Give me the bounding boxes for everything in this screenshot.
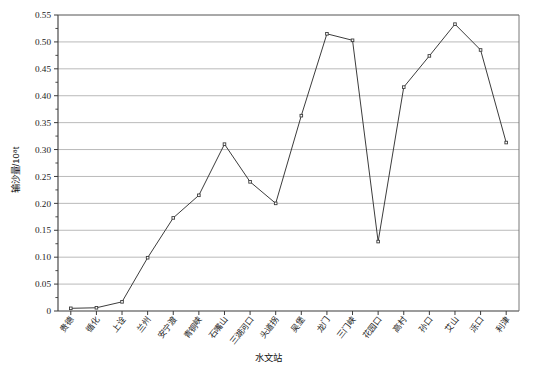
- y-axis-tick-label: 0.45: [35, 64, 51, 74]
- x-axis-category-label: 循化: [84, 314, 102, 334]
- data-point-marker: [198, 194, 201, 197]
- sediment-discharge-line-chart: 00.050.100.150.200.250.300.350.400.450.5…: [0, 0, 535, 375]
- data-point-marker: [121, 301, 124, 304]
- x-axis-ticks-group: [71, 311, 506, 315]
- data-point-marker: [454, 23, 457, 26]
- x-axis-category-label: 龙门: [314, 315, 332, 334]
- data-point-marker: [505, 141, 508, 144]
- x-axis-category-label: 孙口: [417, 315, 435, 334]
- y-axis-title: 输沙量/10⁸t: [10, 146, 21, 193]
- data-point-marker: [428, 55, 431, 58]
- x-axis-category-label: 吴堡: [289, 314, 307, 334]
- data-point-marker: [223, 143, 226, 146]
- x-axis-category-label: 三湖河口: [228, 315, 256, 346]
- y-axis-tick-label: 0.25: [35, 172, 51, 182]
- y-axis-ticks-group: [54, 15, 58, 311]
- y-axis-tick-label: 0.40: [35, 91, 51, 101]
- x-axis-category-label: 兰州: [135, 315, 153, 334]
- y-axis-tick-label: 0.15: [35, 225, 51, 235]
- y-axis-tick-labels-group: 00.050.100.150.200.250.300.350.400.450.5…: [35, 10, 51, 316]
- x-axis-category-label: 三门峡: [335, 314, 358, 340]
- x-axis-category-labels-group: 贵德循化上诠兰州安宁渡青铜峡石嘴山三湖河口头道拐吴堡龙门三门峡花园口高村孙口艾山…: [58, 314, 512, 346]
- x-axis-category-label: 高村: [391, 314, 409, 334]
- x-axis-category-label: 安宁渡: [156, 314, 179, 340]
- gridlines-group: [58, 15, 519, 284]
- data-point-marker: [351, 39, 354, 42]
- data-point-marker: [326, 33, 329, 36]
- data-point-marker: [95, 306, 98, 309]
- data-markers-group: [70, 23, 508, 310]
- x-axis-category-label: 贵德: [58, 314, 76, 334]
- data-point-marker: [274, 202, 277, 205]
- data-point-marker: [70, 307, 73, 310]
- data-point-marker: [479, 49, 482, 52]
- y-axis-tick-label: 0.50: [35, 37, 51, 47]
- data-series-group: [71, 24, 506, 308]
- data-point-marker: [249, 181, 252, 184]
- x-axis-category-label: 石嘴山: [207, 315, 230, 340]
- x-axis-category-label: 青铜峡: [181, 314, 204, 340]
- y-axis-tick-label: 0.20: [35, 199, 51, 209]
- data-point-marker: [146, 256, 149, 259]
- x-axis-category-label: 利津: [494, 314, 512, 334]
- x-axis-category-label: 花园口: [361, 315, 384, 340]
- y-axis-tick-label: 0.35: [35, 118, 51, 128]
- x-axis-category-label: 艾山: [442, 315, 460, 334]
- x-axis-title: 水文站: [255, 352, 282, 363]
- x-axis-category-label: 头道拐: [258, 315, 281, 340]
- data-point-marker: [377, 240, 380, 243]
- x-axis-category-label: 上诠: [109, 314, 127, 334]
- data-point-marker: [402, 86, 405, 89]
- y-axis-tick-label: 0.30: [35, 145, 51, 155]
- x-axis-category-label: 泺口: [468, 315, 486, 334]
- y-axis-tick-label: 0.55: [35, 10, 51, 20]
- data-point-marker: [172, 217, 175, 220]
- chart-container: 00.050.100.150.200.250.300.350.400.450.5…: [0, 0, 535, 375]
- y-axis-tick-label: 0.10: [35, 252, 51, 262]
- y-axis-tick-label: 0.05: [35, 279, 51, 289]
- y-axis-tick-label: 0: [46, 306, 51, 316]
- plot-frame: [58, 15, 519, 311]
- data-point-marker: [300, 114, 303, 117]
- series-line-sediment-discharge: [71, 24, 506, 308]
